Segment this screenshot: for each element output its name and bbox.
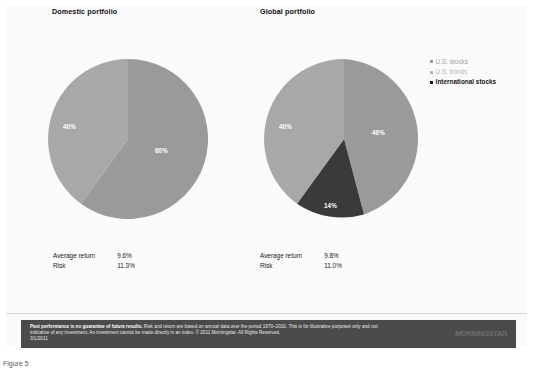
legend-item-international-stocks: International stocks (430, 78, 525, 86)
legend-label-international-stocks: International stocks (436, 78, 497, 86)
stats-value-risk: 11.0% (324, 262, 342, 272)
stats-label-risk: Risk (260, 262, 324, 272)
footer-banner: Past performance is no guarantee of futu… (21, 320, 516, 348)
stats-table-global: Average return 9.8% Risk 11.0% (260, 252, 342, 273)
legend-bullet-icon (430, 60, 433, 63)
legend-bullet-icon (430, 71, 433, 74)
pie-label-domestic-stocks: 60% (155, 147, 168, 154)
stats-value-risk: 11.3% (117, 262, 135, 272)
pie-label-global-bonds: 40% (279, 123, 292, 130)
legend-label-us-stocks: U.S. stocks (436, 58, 468, 66)
figure-caption: Figure 5 (3, 360, 29, 367)
stats-label-average-return: Average return (53, 252, 117, 262)
stats-global: Average return 9.8% Risk 11.0% (260, 252, 342, 273)
morningstar-logo: MORNINGSTAR (455, 329, 507, 338)
stats-label-average-return: Average return (260, 252, 324, 262)
pie-domestic-svg (46, 57, 210, 221)
table-row: Risk 11.0% (260, 262, 342, 272)
panel-divider (6, 313, 527, 314)
legend-item-us-bonds: U.S. bonds (430, 68, 525, 76)
pie-label-global-international: 14% (324, 202, 337, 209)
pie-chart-domestic: 60% 40% (46, 57, 210, 221)
chart-legend: U.S. stocks U.S. bonds International sto… (430, 58, 525, 89)
pie-label-domestic-bonds: 40% (63, 123, 76, 130)
stats-label-risk: Risk (53, 262, 117, 272)
legend-item-us-stocks: U.S. stocks (430, 58, 525, 66)
stats-table-domestic: Average return 9.6% Risk 11.3% (53, 252, 135, 273)
footer-disclaimer-lead: Past performance is no guarantee of futu… (30, 324, 143, 329)
legend-label-us-bonds: U.S. bonds (436, 68, 468, 76)
stats-value-average-return: 9.8% (324, 252, 342, 262)
stats-value-average-return: 9.6% (117, 252, 135, 262)
stats-domestic: Average return 9.6% Risk 11.3% (53, 252, 135, 273)
table-row: Risk 11.3% (53, 262, 135, 272)
table-row: Average return 9.8% (260, 252, 342, 262)
chart-title-domestic: Domestic portfolio (52, 7, 117, 16)
exhibit-root: Domestic portfolio 60% 40% Average retur… (0, 0, 533, 370)
table-row: Average return 9.6% (53, 252, 135, 262)
chart-title-global: Global portfolio (260, 7, 315, 16)
pie-chart-global: 46% 40% 14% (262, 57, 426, 221)
footer-disclaimer: Past performance is no guarantee of futu… (30, 324, 390, 343)
footer-date: 3/1/2011 (30, 336, 390, 342)
pie-label-global-stocks: 46% (372, 129, 385, 136)
pie-global-svg (262, 57, 426, 221)
legend-bullet-icon (430, 81, 433, 84)
